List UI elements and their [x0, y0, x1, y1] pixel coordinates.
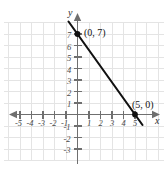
x-tick-label-5: 5	[133, 119, 137, 128]
x-axis-label: x	[155, 116, 159, 126]
y-tick-label-6: 6	[67, 43, 71, 52]
y-axis-top-arrowhead	[74, 13, 81, 21]
y-tick-label-neg3: -3	[64, 146, 71, 155]
x-tick-label-neg4: -4	[27, 119, 34, 128]
y-axis-label: y	[68, 8, 72, 18]
x-tick-label-neg2: -2	[50, 119, 57, 128]
y-tick-label-7: 7	[67, 31, 71, 40]
x-tick-label-neg5: -5	[15, 119, 22, 128]
y-tick-label-5: 5	[67, 54, 71, 63]
x-tick-label-3: 3	[110, 119, 114, 128]
coordinate-plane-svg	[0, 0, 168, 169]
x-tick-label-1: 1	[87, 119, 91, 128]
y-intercept-point-label: (0, 7)	[84, 28, 106, 38]
y-tick-label-3: 3	[67, 77, 71, 86]
y-tick-label-4: 4	[67, 66, 71, 75]
x-intercept-point-label: (5, 0)	[132, 100, 154, 110]
y-tick-label-neg1: -1	[64, 123, 71, 132]
point-marker-x-intercept	[132, 112, 138, 118]
x-tick-label-neg3: -3	[38, 119, 45, 128]
linear-equation-graph: -5 -4 -3 -2 -1 1 2 3 4 5 1 2 3 4 5 6 7 -…	[0, 0, 168, 169]
y-tick-label-1: 1	[67, 100, 71, 109]
y-tick-label-2: 2	[67, 89, 71, 98]
x-tick-label-4: 4	[122, 119, 126, 128]
x-tick-label-2: 2	[99, 119, 103, 128]
y-tick-label-neg2: -2	[64, 135, 71, 144]
point-marker-y-intercept	[75, 31, 81, 37]
